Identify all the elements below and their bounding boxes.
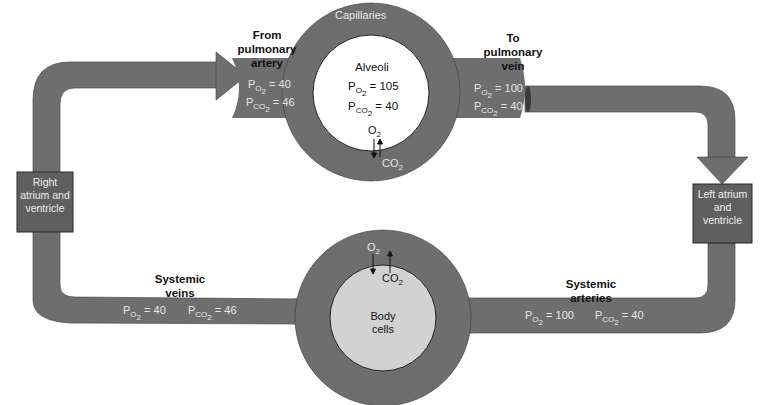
alveoli-po2-value: = 105	[370, 80, 399, 92]
co2-text: CO	[382, 157, 399, 169]
artery-pco2-value: = 46	[273, 96, 295, 108]
o2-subscript: O2	[255, 84, 266, 93]
o2-sub: 2	[377, 130, 381, 139]
alveoli-po2: PO2 = 105	[348, 80, 399, 98]
veins-po2-value: = 40	[144, 304, 166, 316]
veins-po2: PO2 = 40	[123, 304, 166, 322]
capillaries-label: Capillaries	[335, 9, 386, 21]
from-pulmonary-artery-label: From pulmonary artery	[232, 28, 302, 70]
co2-subscript: CO2	[253, 102, 269, 111]
artery-po2-value: = 40	[269, 78, 291, 90]
co2-text: CO	[382, 272, 399, 284]
vein-pco2-value: = 40	[501, 100, 523, 112]
arteries-pco2-value: = 40	[622, 309, 644, 321]
artery-pco2: PCO2 = 46	[246, 96, 295, 114]
o2-subscript: O2	[481, 88, 492, 97]
co2-subscript: CO2	[356, 106, 372, 115]
co2-sub: 2	[399, 163, 403, 172]
veins-pco2-value: = 46	[215, 304, 237, 316]
body-cells-label: Body cells	[358, 310, 408, 336]
artery-po2: PO2 = 40	[248, 78, 291, 96]
right-heart-label: Right atrium and ventricle	[17, 176, 73, 215]
vein-po2-value: = 100	[495, 82, 523, 94]
body-co2-label: CO2	[382, 272, 403, 287]
p-symbol: P	[348, 100, 356, 112]
alveoli-pco2: PCO2 = 40	[348, 100, 398, 118]
to-pulmonary-vein-label: To pulmonary vein	[478, 31, 548, 73]
o2-text: O	[367, 241, 376, 253]
pulmonary-vein-pipe	[525, 86, 735, 158]
o2-text: O	[368, 124, 377, 136]
arteries-pco2: PCO2 = 40	[595, 309, 644, 327]
vein-pco2: PCO2 = 40	[474, 100, 523, 118]
arteries-po2: PO2 = 100	[525, 309, 574, 327]
vein-opening	[525, 86, 531, 112]
co2-subscript: CO2	[481, 106, 497, 115]
co2-subscript: CO2	[195, 310, 211, 319]
arrow-into-left-heart-icon	[697, 157, 748, 184]
veins-pco2: PCO2 = 46	[188, 304, 237, 322]
alveoli-o2-label: O2	[368, 124, 381, 139]
o2-subscript: O2	[532, 315, 543, 324]
left-heart-label: Left atrium and ventricle	[693, 188, 752, 227]
co2-sub: 2	[399, 278, 403, 287]
alveoli-pco2-value: = 40	[375, 100, 398, 112]
co2-subscript: CO2	[602, 315, 618, 324]
capillary-co2-label: CO2	[382, 157, 403, 172]
alveoli-title: Alveoli	[355, 61, 389, 73]
systemic-veins-label: Systemic veins	[145, 272, 215, 300]
vein-po2: PO2 = 100	[474, 82, 523, 100]
o2-subscript: O2	[356, 86, 367, 95]
o2-sub: 2	[376, 247, 380, 256]
arteries-po2-value: = 100	[546, 309, 574, 321]
o2-subscript: O2	[130, 310, 141, 319]
systemic-arteries-label: Systemic arteries	[556, 277, 626, 305]
systemic-o2-label: O2	[367, 241, 380, 256]
p-symbol: P	[348, 80, 356, 92]
